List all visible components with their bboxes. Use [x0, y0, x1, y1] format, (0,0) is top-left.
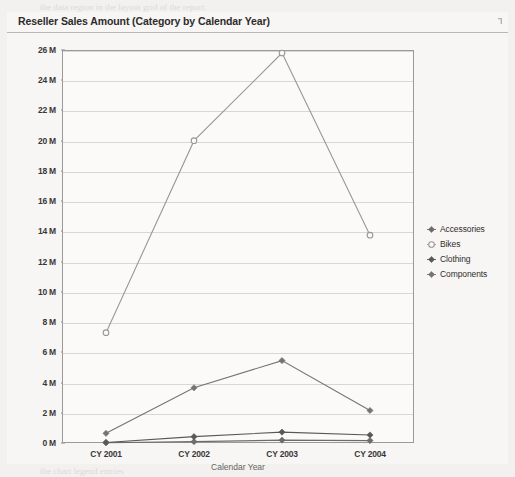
series-data-point	[191, 434, 197, 440]
y-axis-tick-label: 4 M	[42, 378, 56, 388]
series-data-point	[279, 429, 285, 435]
series-data-point	[279, 50, 285, 56]
legend-item-components[interactable]: Components	[427, 267, 507, 281]
series-data-point	[103, 330, 109, 336]
diamond-marker-icon	[427, 255, 436, 264]
series-data-point	[367, 407, 373, 413]
x-axis-tick-label: CY 2003	[266, 449, 298, 459]
x-axis-tick-label: CY 2001	[90, 449, 122, 459]
series-data-point	[191, 385, 197, 391]
series-data-point	[103, 430, 109, 436]
background-text-line: the data region in the layout grid of th…	[40, 2, 206, 12]
series-data-point	[367, 432, 373, 438]
y-axis-tick-label: 8 M	[42, 317, 56, 327]
y-axis-tick-label: 10 M	[38, 287, 56, 297]
legend-item-label: Accessories	[440, 224, 485, 234]
legend-item-label: Clothing	[440, 254, 470, 264]
series-data-point	[103, 439, 109, 445]
chart-series	[103, 437, 373, 446]
background-text-line: the chart legend entries	[40, 466, 124, 476]
legend-item-label: Bikes	[440, 239, 460, 249]
series-line	[106, 53, 370, 333]
diamond-marker-icon	[427, 225, 436, 234]
y-axis: 0 M2 M4 M6 M8 M10 M12 M14 M16 M18 M20 M2…	[15, 50, 56, 443]
y-axis-tick-label: 20 M	[38, 136, 56, 146]
series-line	[106, 440, 370, 443]
series-data-point	[279, 358, 285, 364]
legend-item-bikes[interactable]: Bikes	[427, 237, 507, 251]
chart-series	[103, 358, 373, 437]
series-data-point	[279, 437, 285, 443]
y-axis-tick-label: 26 M	[38, 45, 56, 55]
series-line	[106, 361, 370, 434]
chart-series-layer	[62, 50, 414, 443]
y-axis-tick-label: 2 M	[42, 408, 56, 418]
diamond-marker-icon	[427, 270, 436, 279]
legend-item-clothing[interactable]: Clothing	[427, 252, 507, 266]
chart-series	[103, 50, 373, 335]
y-axis-tick-label: 16 M	[38, 196, 56, 206]
page-title: Reseller Sales Amount (Category by Calen…	[18, 15, 270, 27]
chart-series	[103, 429, 373, 446]
x-axis-tick-label: CY 2002	[178, 449, 210, 459]
chart-title-bar: Reseller Sales Amount (Category by Calen…	[7, 12, 508, 33]
series-data-point	[367, 232, 373, 238]
y-axis-tick-label: 6 M	[42, 347, 56, 357]
circle-marker-icon	[427, 240, 436, 249]
series-data-point	[191, 138, 197, 144]
y-axis-tick-label: 12 M	[38, 257, 56, 267]
chart-legend: AccessoriesBikesClothingComponents	[427, 222, 507, 282]
legend-item-label: Components	[440, 269, 487, 279]
legend-item-accessories[interactable]: Accessories	[427, 222, 507, 236]
y-axis-tick-label: 14 M	[38, 226, 56, 236]
y-axis-tick-label: 0 M	[42, 438, 56, 448]
x-axis-tick-label: CY 2004	[354, 449, 386, 459]
y-axis-tick-label: 18 M	[38, 166, 56, 176]
y-axis-tick-label: 24 M	[38, 75, 56, 85]
x-axis-title: Calendar Year	[211, 462, 265, 472]
chart-panel: Reseller Sales Amount (Category by Calen…	[7, 12, 508, 464]
y-axis-tick-label: 22 M	[38, 105, 56, 115]
resize-handle-icon[interactable]	[495, 16, 505, 27]
